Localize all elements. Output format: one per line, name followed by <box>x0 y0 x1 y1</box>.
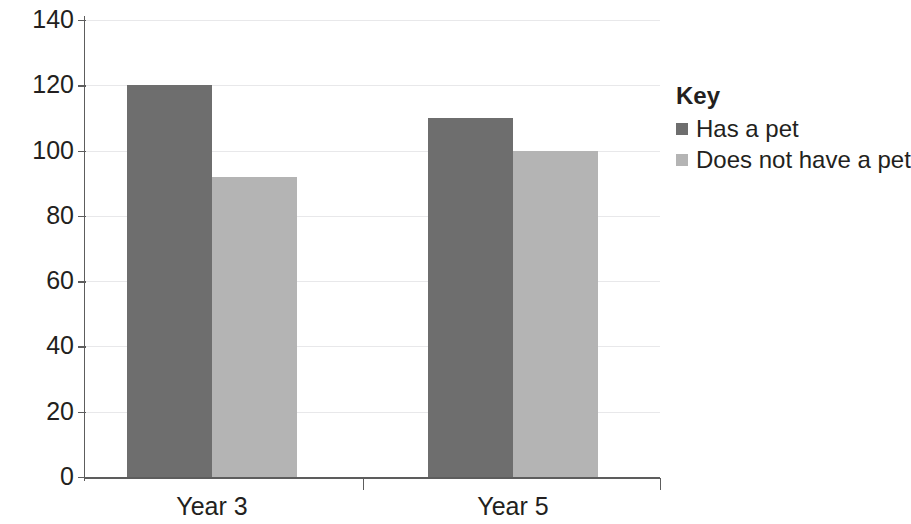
plot-area <box>85 20 660 477</box>
x-axis-line <box>85 477 660 479</box>
y-axis-tick-label: 0 <box>2 464 74 489</box>
y-axis-tick <box>78 477 86 478</box>
legend-item-label: Does not have a pet <box>696 146 911 174</box>
y-axis-tick-label: 20 <box>2 399 74 424</box>
legend-title: Key <box>676 82 902 110</box>
y-axis-tick <box>78 20 86 21</box>
x-axis-category-separator <box>363 478 364 490</box>
y-axis-tick <box>78 151 86 152</box>
y-axis-tick-label: 120 <box>2 72 74 97</box>
bar <box>127 85 212 477</box>
gridline <box>85 20 660 21</box>
y-axis-tick <box>78 85 86 86</box>
legend-item-has-a-pet: Has a pet <box>676 113 902 144</box>
legend-item-does-not-have-a-pet: Does not have a pet <box>676 144 902 175</box>
bar <box>212 177 297 477</box>
y-axis-tick <box>78 412 86 413</box>
y-axis-tick-label: 140 <box>2 7 74 32</box>
y-axis-tick-label: 40 <box>2 333 74 358</box>
y-axis-tick-label: 100 <box>2 138 74 163</box>
x-axis-category-separator <box>660 478 661 490</box>
bar <box>428 118 513 477</box>
y-axis-tick-label: 80 <box>2 203 74 228</box>
legend: Key Has a pet Does not have a pet <box>676 82 902 175</box>
legend-swatch-icon <box>676 154 688 166</box>
y-axis-tick <box>78 216 86 217</box>
y-axis-tick <box>78 346 86 347</box>
y-axis-tick <box>78 281 86 282</box>
legend-swatch-icon <box>676 123 688 135</box>
bar <box>513 151 598 477</box>
y-axis-tick-label: 60 <box>2 268 74 293</box>
x-axis-tick-label: Year 5 <box>433 492 593 520</box>
x-axis-tick-label: Year 3 <box>132 492 292 520</box>
legend-item-label: Has a pet <box>696 115 799 143</box>
y-axis-tick-labels: 140120100806040200 <box>0 0 74 524</box>
